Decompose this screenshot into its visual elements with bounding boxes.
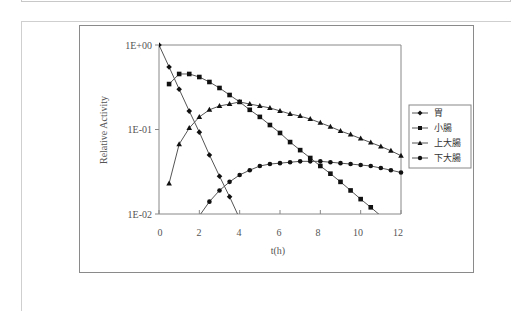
circle-marker-icon: [247, 168, 252, 173]
circle-marker-icon: [338, 161, 343, 166]
square-marker-icon: [298, 148, 303, 153]
legend-label: 上大腸: [434, 137, 461, 148]
square-marker-icon: [418, 126, 422, 130]
square-marker-icon: [197, 75, 202, 80]
legend: 胃 小腸 上大腸 下大腸: [409, 105, 471, 168]
square-marker-icon: [328, 171, 333, 176]
diamond-marker-icon: [197, 129, 203, 135]
series-diamond: [156, 42, 239, 218]
square-marker-icon: [167, 82, 172, 87]
circle-marker-icon: [258, 164, 263, 169]
series-triangle: [166, 99, 404, 186]
y-tick-label: 1E-01: [128, 124, 152, 135]
square-marker-icon: [247, 108, 252, 113]
x-tick-label: 4: [237, 227, 242, 238]
circle-marker-icon: [237, 173, 242, 178]
square-marker-icon: [288, 140, 293, 145]
legend-label: 小腸: [434, 123, 452, 133]
square-marker-icon: [258, 115, 263, 120]
square-marker-icon: [227, 93, 232, 98]
triangle-marker-icon: [166, 180, 172, 185]
circle-marker-icon: [399, 170, 404, 175]
x-tick-label: 0: [158, 227, 163, 238]
circle-marker-icon: [298, 159, 303, 164]
diamond-marker-icon: [186, 108, 192, 114]
legend-label: 胃: [434, 108, 443, 118]
square-marker-icon: [358, 197, 363, 202]
x-tick-label: 12: [393, 227, 403, 238]
square-marker-icon: [187, 72, 192, 77]
diamond-marker-icon: [227, 194, 233, 200]
square-marker-icon: [177, 72, 182, 77]
circle-marker-icon: [389, 168, 394, 173]
y-tick-label: 1E+00: [125, 40, 152, 51]
x-tick-label: 6: [277, 227, 282, 238]
plot-area: [159, 45, 401, 214]
circle-marker-icon: [207, 199, 212, 204]
circle-marker-icon: [268, 162, 273, 167]
axis-ticks: [155, 45, 401, 214]
x-tick-label: 10: [353, 227, 363, 238]
circle-marker-icon: [278, 161, 283, 166]
circle-marker-icon: [418, 156, 422, 160]
square-marker-icon: [368, 205, 373, 210]
circle-marker-icon: [328, 160, 333, 165]
circle-marker-icon: [318, 159, 323, 164]
square-marker-icon: [318, 164, 323, 169]
circle-marker-icon: [368, 164, 373, 169]
diamond-marker-icon: [166, 64, 172, 70]
series-square: [167, 72, 381, 216]
circle-marker-icon: [217, 188, 222, 193]
diamond-marker-icon: [176, 86, 182, 92]
square-marker-icon: [207, 80, 212, 85]
circle-marker-icon: [308, 159, 313, 164]
diamond-marker-icon: [217, 173, 223, 179]
square-marker-icon: [217, 86, 222, 91]
square-marker-icon: [338, 180, 343, 185]
series-layer: [156, 42, 404, 218]
legend-label: 下大腸: [434, 152, 461, 163]
x-axis-title: t(h): [271, 245, 285, 257]
square-marker-icon: [348, 188, 353, 193]
y-axis-title: Relative Activity: [98, 96, 109, 164]
circle-marker-icon: [348, 162, 353, 167]
circle-marker-icon: [358, 163, 363, 168]
circle-marker-icon: [288, 160, 293, 165]
triangle-marker-icon: [197, 114, 203, 119]
y-tick-label: 1E-02: [128, 209, 152, 220]
circle-marker-icon: [379, 166, 384, 171]
square-marker-icon: [278, 131, 283, 136]
diamond-marker-icon: [207, 152, 213, 158]
square-marker-icon: [268, 123, 273, 128]
x-tick-label: 8: [316, 227, 321, 238]
circle-marker-icon: [227, 180, 232, 185]
x-tick-label: 2: [197, 227, 202, 238]
